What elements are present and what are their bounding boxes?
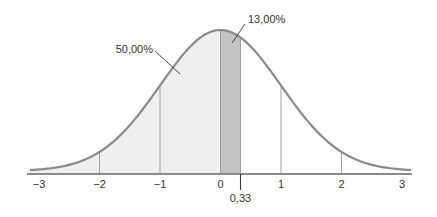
label-50-percent: 50,00% xyxy=(116,43,154,55)
x-tick-label: 0 xyxy=(217,178,223,190)
x-tick-label: −3 xyxy=(33,178,46,190)
x-axis-tick-labels: −3−2−10123 xyxy=(33,178,405,190)
x-tick-label: −2 xyxy=(93,178,106,190)
x-tick-label: −1 xyxy=(154,178,167,190)
label-13-percent: 13,00% xyxy=(248,13,286,25)
marker-label: 0,33 xyxy=(230,192,251,204)
x-tick-label: 2 xyxy=(338,178,344,190)
chart-svg: −3−2−10123 0,33 50,00% 13,00% xyxy=(0,0,437,217)
area-0-to-marker xyxy=(221,30,241,174)
x-tick-label: 3 xyxy=(399,178,405,190)
normal-distribution-chart: −3−2−10123 0,33 50,00% 13,00% xyxy=(0,0,437,217)
x-tick-label: 1 xyxy=(278,178,284,190)
